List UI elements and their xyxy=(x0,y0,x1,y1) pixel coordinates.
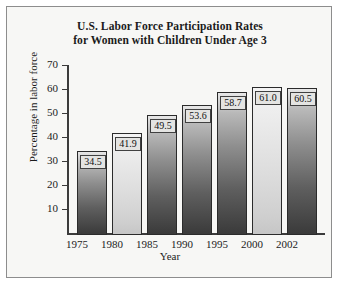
bar-2000[interactable]: 61.0 xyxy=(252,87,282,235)
bar-1990[interactable]: 53.6 xyxy=(182,105,212,235)
y-tick-label-60: 60 xyxy=(23,82,58,94)
bar-value-1980: 41.9 xyxy=(115,137,141,151)
y-tick-mark xyxy=(62,161,68,162)
chart-frame: U.S. Labor Force Participation Rates for… xyxy=(6,6,332,278)
bar-2002[interactable]: 60.5 xyxy=(287,88,317,235)
chart-title-line-1: U.S. Labor Force Participation Rates xyxy=(7,19,333,33)
y-tick-label-70: 70 xyxy=(23,58,58,70)
y-tick-label-10: 10 xyxy=(23,202,58,214)
bar-value-1985: 49.5 xyxy=(150,119,176,133)
bar-value-1975: 34.5 xyxy=(80,155,106,169)
bar-1975[interactable]: 34.5 xyxy=(77,151,107,235)
bar-1995[interactable]: 58.7 xyxy=(217,92,247,235)
x-tick-label-2002: 2002 xyxy=(265,238,309,250)
y-tick-mark xyxy=(62,65,68,66)
y-tick-label-30: 30 xyxy=(23,154,58,166)
y-tick-label-50: 50 xyxy=(23,106,58,118)
bar-value-1990: 53.6 xyxy=(185,109,211,123)
bar-chart: U.S. Labor Force Participation Rates for… xyxy=(7,7,333,279)
y-tick-mark xyxy=(62,113,68,114)
y-tick-mark xyxy=(62,137,68,138)
y-tick-label-40: 40 xyxy=(23,130,58,142)
y-tick-mark xyxy=(62,89,68,90)
y-tick-mark xyxy=(62,185,68,186)
bar-value-2002: 60.5 xyxy=(290,92,316,106)
bar-value-1995: 58.7 xyxy=(220,96,246,110)
bars-container: 34.5 41.9 49.5 53.6 58.7 xyxy=(69,65,325,235)
x-axis-label: Year xyxy=(7,250,333,262)
chart-title-line-2: for Women with Children Under Age 3 xyxy=(7,33,333,47)
y-tick-mark xyxy=(62,209,68,210)
bar-value-2000: 61.0 xyxy=(255,91,281,105)
chart-title: U.S. Labor Force Participation Rates for… xyxy=(7,19,333,47)
y-tick-label-20: 20 xyxy=(23,178,58,190)
bar-1980[interactable]: 41.9 xyxy=(112,133,142,235)
bar-1985[interactable]: 49.5 xyxy=(147,115,177,235)
